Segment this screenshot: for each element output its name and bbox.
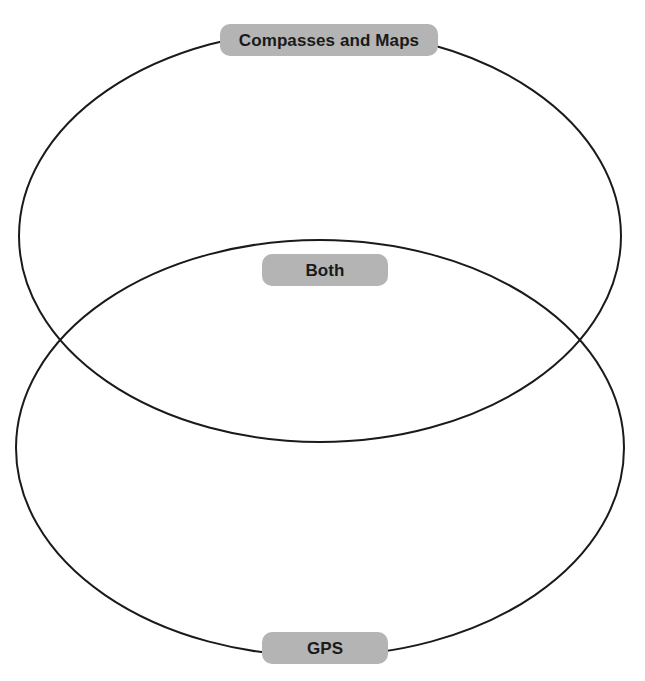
region-label-gps: GPS [262, 632, 388, 664]
compasses-and-maps-ellipse [19, 30, 621, 442]
venn-diagram-canvas [0, 0, 645, 681]
region-label-compasses-and-maps: Compasses and Maps [220, 24, 438, 56]
region-label-both: Both [262, 254, 388, 286]
gps-ellipse [16, 240, 624, 656]
venn-diagram: Compasses and Maps Both GPS [0, 0, 645, 681]
